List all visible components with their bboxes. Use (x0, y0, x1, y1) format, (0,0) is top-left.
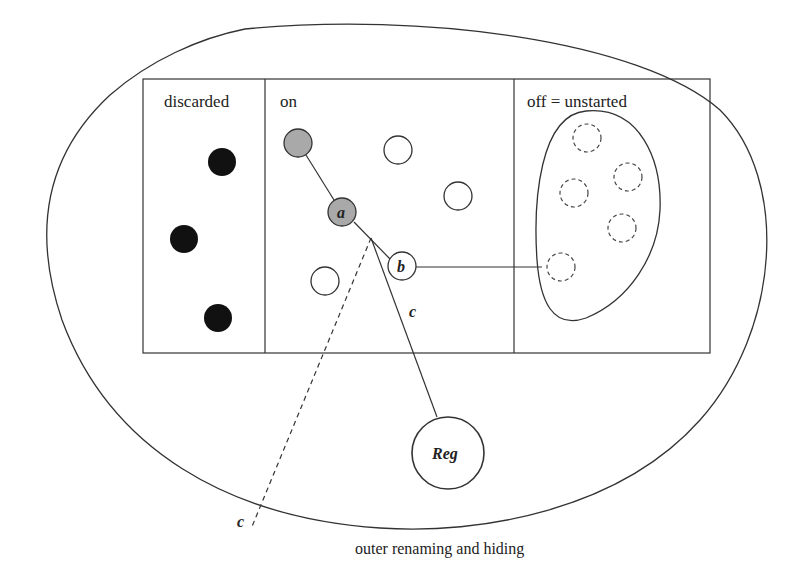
edge-label-c-dashed: c (237, 513, 244, 530)
edge-grey-to-a (306, 155, 334, 200)
unstarted-process (547, 253, 575, 281)
on-process (444, 182, 472, 210)
unstarted-cluster (536, 111, 660, 321)
outer-caption: outer renaming and hiding (355, 540, 524, 558)
discarded-process (204, 304, 232, 332)
on-process-grey (284, 129, 312, 157)
edge-label-c-solid: c (409, 303, 416, 320)
discarded-process (208, 148, 236, 176)
diagram-canvas: discarded on off = unstarted a b c Reg c… (0, 0, 802, 587)
unstarted-process (614, 163, 642, 191)
node-a-label: a (337, 204, 345, 221)
unstarted-process (560, 179, 588, 207)
column-label-discarded: discarded (164, 92, 230, 111)
node-b-label: b (397, 258, 405, 275)
unstarted-process (608, 214, 636, 242)
discarded-process (170, 225, 198, 253)
unstarted-process (573, 124, 601, 152)
on-process (384, 136, 412, 164)
node-reg-label: Reg (431, 445, 458, 463)
column-label-on: on (280, 92, 298, 111)
on-process (311, 267, 339, 295)
column-label-off: off = unstarted (527, 92, 627, 111)
